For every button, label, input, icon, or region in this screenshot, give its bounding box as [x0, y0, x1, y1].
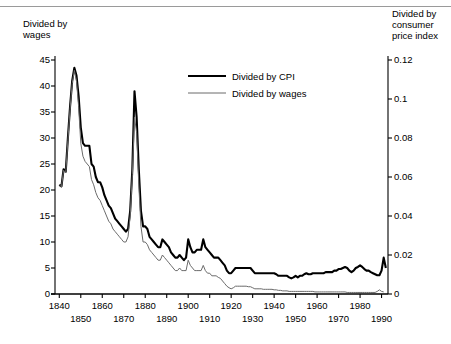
- x-tick-label-top: 1960: [297, 301, 337, 311]
- x-tick-label-top: 1840: [39, 301, 79, 311]
- y2-tick-label: 0.02: [394, 250, 413, 260]
- y2-tick-label: 0.12: [394, 55, 413, 65]
- series-group: [59, 68, 386, 293]
- x-tick-label-bottom: 1970: [319, 314, 359, 324]
- y-tick-label: 5: [18, 263, 50, 273]
- x-tick-label-bottom: 1990: [362, 314, 402, 324]
- y-tick-label: 25: [18, 159, 50, 169]
- x-tick-label-top: 1980: [340, 301, 380, 311]
- x-tick-label-bottom: 1930: [233, 314, 273, 324]
- x-tick-label-bottom: 1910: [190, 314, 230, 324]
- y2-tick-label: 0.1: [394, 94, 407, 104]
- x-tick-label-bottom: 1870: [104, 314, 144, 324]
- chart-plot-area: [0, 0, 451, 344]
- y-tick-label: 40: [18, 81, 50, 91]
- y-tick-label: 20: [18, 185, 50, 195]
- chart-figure: Divided by wages Divided by consumer pri…: [0, 0, 451, 344]
- y2-tick-label: 0.08: [394, 133, 413, 143]
- y-tick-label: 35: [18, 107, 50, 117]
- x-tick-label-bottom: 1950: [276, 314, 316, 324]
- x-tick-label-top: 1880: [125, 301, 165, 311]
- x-tick-label-top: 1860: [82, 301, 122, 311]
- y-tick-label: 0: [18, 289, 50, 299]
- y-tick-label: 45: [18, 55, 50, 65]
- y-tick-label: 30: [18, 133, 50, 143]
- y2-tick-label: 0.06: [394, 172, 413, 182]
- x-tick-label-bottom: 1850: [61, 314, 101, 324]
- x-tick-label-top: 1920: [211, 301, 251, 311]
- x-tick-label-bottom: 1890: [147, 314, 187, 324]
- series-line-divided-by-cpi: [59, 68, 386, 279]
- legend-line-swatches: [188, 76, 226, 93]
- x-tick-label-top: 1900: [168, 301, 208, 311]
- y2-tick-label: 0.04: [394, 211, 413, 221]
- series-line-divided-by-wages: [59, 70, 383, 292]
- y2-tick-label: 0: [394, 289, 399, 299]
- y-tick-label: 15: [18, 211, 50, 221]
- x-tick-label-top: 1940: [254, 301, 294, 311]
- y-tick-label: 10: [18, 237, 50, 247]
